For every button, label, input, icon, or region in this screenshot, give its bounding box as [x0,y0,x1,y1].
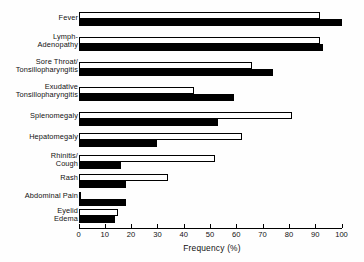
bar-open [79,87,195,94]
bar-solid [79,181,126,188]
bar-solid [79,19,342,26]
x-tick [342,224,343,228]
bar-solid [79,140,158,147]
bar-open [79,62,253,69]
x-tick [289,224,290,228]
category-label: Rash [60,174,78,182]
x-tick-label: 50 [198,231,222,239]
x-axis-title: Frequency (%) [0,243,364,253]
category-label: Hepatomegaly [29,133,78,141]
bar-solid [79,94,234,101]
bar-solid [79,44,324,51]
bar-open [79,192,81,199]
x-tick [315,224,316,228]
bar-open [79,133,242,140]
category-label: Eyelid Edema [54,207,78,224]
category-label: Rhinitis/ Cough [51,152,78,169]
bar-solid [79,199,126,206]
category-label: Abdominal Pain [25,192,78,200]
x-tick [131,224,132,228]
category-label: Lymph- Adenopathy [38,33,78,50]
bar-solid [79,69,274,76]
bar-open [79,209,118,216]
x-axis-line [79,228,342,229]
x-tick [79,224,80,228]
bar-solid [79,162,121,169]
x-tick [210,224,211,228]
bar-solid [79,216,116,223]
x-tick-label: 30 [145,231,169,239]
category-label: Splenomegaly [30,112,78,120]
x-tick-label: 20 [119,231,143,239]
x-tick-label: 80 [277,231,301,239]
bar-open [79,12,321,19]
bar-open [79,155,216,162]
bar-open [79,37,321,44]
x-tick [184,224,185,228]
bar-open [79,174,168,181]
x-tick-label: 0 [67,231,91,239]
frequency-bar-chart: FeverLymph- AdenopathySore Throat/ Tonsi… [0,0,364,262]
x-tick-label: 10 [93,231,117,239]
category-label: Sore Throat/ Tonsillopharyngitis [16,58,78,75]
category-label: Exudative Tonsillopharyngitis [16,83,78,100]
x-tick-label: 90 [303,231,327,239]
plot-area: FeverLymph- AdenopathySore Throat/ Tonsi… [0,0,364,262]
x-tick-label: 70 [251,231,275,239]
x-tick-label: 60 [224,231,248,239]
x-tick [263,224,264,228]
category-label: Fever [59,14,78,22]
bar-solid [79,119,218,126]
bar-open [79,112,292,119]
x-tick [157,224,158,228]
x-tick-label: 100 [330,231,354,239]
x-tick [236,224,237,228]
x-tick-label: 40 [172,231,196,239]
x-tick [105,224,106,228]
